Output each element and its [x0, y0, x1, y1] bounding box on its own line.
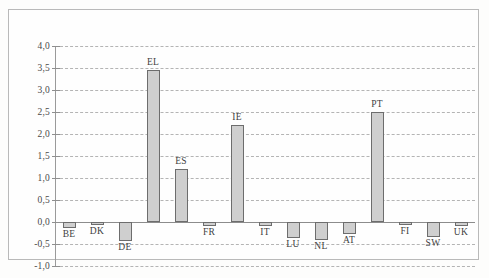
y-axis-tick-label: 3,0 — [38, 85, 50, 95]
bar-uk — [455, 222, 468, 226]
gridline — [55, 68, 475, 69]
bar-nl — [315, 222, 328, 240]
y-axis-tick-label: 2,5 — [38, 107, 50, 117]
bar-de — [119, 222, 132, 241]
gridline — [55, 266, 475, 267]
y-axis-tick-label: 1,5 — [38, 151, 50, 161]
bar-be — [63, 222, 76, 228]
bar-dk — [91, 222, 104, 225]
bar-label-el: EL — [138, 57, 168, 67]
bar-label-ie: IE — [222, 112, 252, 122]
bar-label-sw: SW — [418, 238, 448, 248]
y-axis-tick — [52, 156, 60, 157]
bar-it — [259, 222, 272, 226]
y-axis-tick — [52, 200, 60, 201]
gridline — [55, 112, 475, 113]
y-axis: 4,03,53,02,52,01,51,00,50,0-0,5-1,0 — [55, 46, 56, 266]
bar-el — [147, 70, 160, 222]
y-axis-tick-label: 0,5 — [38, 195, 50, 205]
bar-label-uk: UK — [446, 227, 476, 237]
bar-label-de: DE — [110, 242, 140, 252]
y-axis-tick-label: -1,0 — [34, 261, 50, 271]
bar-label-dk: DK — [82, 226, 112, 236]
y-axis-tick — [52, 134, 60, 135]
y-axis-tick — [52, 222, 60, 223]
y-axis-tick — [52, 178, 60, 179]
bar-label-fi: FI — [390, 226, 420, 236]
bar-pt — [371, 112, 384, 222]
y-axis-tick-label: 1,0 — [38, 173, 50, 183]
y-axis-tick-label: 4,0 — [38, 41, 50, 51]
y-axis-tick — [52, 266, 60, 267]
y-axis-tick-label: 2,0 — [38, 129, 50, 139]
bar-ie — [231, 125, 244, 222]
bar-label-be: BE — [54, 229, 84, 239]
gridline — [55, 178, 475, 179]
bar-fi — [399, 222, 412, 225]
bar-label-nl: NL — [306, 241, 336, 251]
y-axis-tick-label: -0,5 — [34, 239, 50, 249]
bar-label-es: ES — [166, 156, 196, 166]
chart-container: BEDKDEELESFRIEITLUNLATPTFISWUK 4,03,53,0… — [0, 0, 489, 278]
gridline — [55, 156, 475, 157]
gridline — [55, 46, 475, 47]
bar-label-lu: LU — [278, 239, 308, 249]
y-axis-tick — [52, 90, 60, 91]
y-axis-tick — [52, 46, 60, 47]
bar-label-pt: PT — [362, 99, 392, 109]
bar-label-at: AT — [334, 235, 364, 245]
y-axis-tick — [52, 244, 60, 245]
y-axis-tick — [52, 68, 60, 69]
bar-es — [175, 169, 188, 222]
bar-label-it: IT — [250, 227, 280, 237]
chart-frame: BEDKDEELESFRIEITLUNLATPTFISWUK 4,03,53,0… — [8, 9, 479, 260]
plot-area: BEDKDEELESFRIEITLUNLATPTFISWUK — [55, 46, 475, 266]
y-axis-tick-label: 0,0 — [38, 217, 50, 227]
bar-sw — [427, 222, 440, 237]
y-axis-tick-label: 3,5 — [38, 63, 50, 73]
gridline — [55, 90, 475, 91]
gridline — [55, 200, 475, 201]
gridline — [55, 134, 475, 135]
bar-fr — [203, 222, 216, 226]
bar-label-fr: FR — [194, 227, 224, 237]
y-axis-tick — [52, 112, 60, 113]
bar-at — [343, 222, 356, 234]
bar-lu — [287, 222, 300, 238]
